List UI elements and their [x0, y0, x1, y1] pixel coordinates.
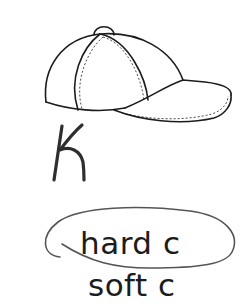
- option-hard-c[interactable]: hard c: [80, 228, 180, 259]
- option-soft-c[interactable]: soft c: [88, 270, 176, 301]
- handwritten-k: [54, 125, 84, 180]
- cap-stitching: [80, 37, 228, 119]
- baseball-cap-icon: [45, 27, 231, 122]
